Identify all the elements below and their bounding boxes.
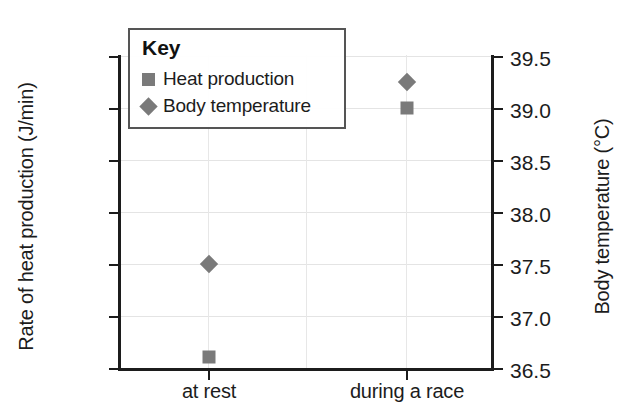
x-axis-tick: [406, 371, 408, 380]
right-axis-tick: [494, 368, 503, 370]
right-axis-tick-label: 39.5: [510, 48, 610, 69]
right-axis-tick: [494, 212, 503, 214]
x-axis-category-label: at rest: [109, 381, 309, 401]
right-axis-tick-label: 38.0: [510, 204, 610, 225]
x-axis-category-label: during a race: [307, 381, 507, 401]
right-axis-tick-label: 37.5: [510, 256, 610, 277]
data-point-body-temperature-at-rest: [200, 255, 218, 273]
left-axis-spine: [118, 55, 121, 371]
x-axis-tick: [208, 371, 210, 380]
left-axis-tick: [109, 56, 118, 58]
right-axis-tick: [494, 108, 503, 110]
legend: Key Heat production Body temperature: [128, 28, 346, 129]
left-axis-tick: [109, 160, 118, 162]
right-axis-tick: [494, 160, 503, 162]
right-axis-tick: [494, 56, 503, 58]
left-axis-tick: [109, 316, 118, 318]
right-axis-tick-label: 37.0: [510, 308, 610, 329]
left-axis-tick: [109, 212, 118, 214]
right-axis-tick-label: 39.0: [510, 100, 610, 121]
bottom-axis-spine: [118, 368, 494, 371]
right-axis-tick: [494, 264, 503, 266]
right-axis-tick-label: 38.5: [510, 152, 610, 173]
left-axis-title: Rate of heat production (J/min): [15, 67, 38, 367]
left-axis-tick: [109, 264, 118, 266]
legend-item-body-temperature: Body temperature: [142, 93, 311, 119]
right-axis-tick: [494, 316, 503, 318]
right-axis-tick-label: 36.5: [510, 360, 610, 381]
data-point-body-temperature-during-a-race: [398, 73, 416, 91]
left-axis-tick: [109, 108, 118, 110]
left-axis-tick: [109, 368, 118, 370]
data-point-heat-production-at-rest: [203, 351, 216, 364]
legend-title: Key: [142, 36, 181, 60]
chart-container: Rate of heat production (J/min) Body tem…: [0, 0, 622, 420]
legend-item-heat-production: Heat production: [142, 66, 294, 92]
data-point-heat-production-during-a-race: [401, 102, 414, 115]
legend-item-label: Body temperature: [163, 95, 311, 117]
square-marker-icon: [142, 73, 155, 86]
diamond-marker-icon: [139, 97, 157, 115]
legend-item-label: Heat production: [163, 68, 294, 90]
